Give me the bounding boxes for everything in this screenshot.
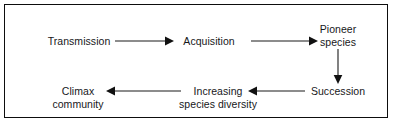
node-climax-line2: community [52, 97, 103, 110]
node-pioneer-line1: Pioneer [320, 23, 357, 36]
node-pioneer-species: Pioneer species [320, 23, 357, 48]
node-climax-community: Climax community [52, 85, 103, 110]
arrow-pioneer-to-succession [329, 49, 349, 85]
node-climax-line1: Climax [52, 85, 103, 98]
node-transmission: Transmission [48, 35, 111, 48]
node-acquisition: Acquisition [183, 35, 234, 48]
arrow-acquisition-to-pioneer [251, 31, 319, 51]
node-transmission-line1: Transmission [48, 35, 111, 48]
node-pioneer-line2: species [320, 35, 357, 48]
node-increasing-line1: Increasing [179, 85, 257, 98]
diagram-border-frame: Transmission Acquisition Pioneer species… [4, 4, 388, 118]
node-succession-line1: Succession [311, 85, 365, 98]
node-acquisition-line1: Acquisition [183, 35, 234, 48]
arrow-increasing-to-climax [106, 81, 182, 101]
diagram-canvas: Transmission Acquisition Pioneer species… [0, 0, 394, 126]
arrow-transmission-to-acquisition [115, 31, 175, 51]
node-increasing-species-diversity: Increasing species diversity [179, 85, 257, 110]
node-increasing-line2: species diversity [179, 97, 257, 110]
arrow-succession-to-increasing [248, 81, 306, 101]
node-succession: Succession [311, 85, 365, 98]
